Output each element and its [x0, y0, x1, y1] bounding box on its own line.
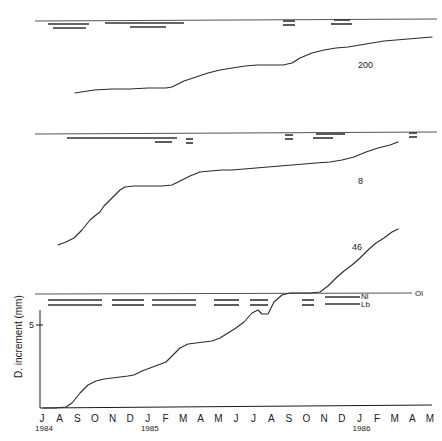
- y-axis-title: D. increment (mm): [13, 295, 24, 378]
- x-axis-year-label: 1985: [141, 424, 159, 433]
- x-axis-month-label: N: [109, 413, 116, 424]
- panel-1-leaf-buds-bars: [53, 24, 352, 28]
- panel-3: Ol Nl: [13, 229, 434, 433]
- x-axis-month-label: J: [40, 413, 45, 424]
- panel-3-y-tick-label-5: 5: [29, 320, 34, 330]
- x-axis-month-label: F: [374, 413, 380, 424]
- x-axis-month-label: J: [251, 413, 256, 424]
- x-axis-month-label: O: [303, 413, 311, 424]
- x-axis-year-label: 1986: [353, 424, 371, 433]
- x-axis-year-labels: 198419851986: [35, 424, 371, 433]
- panel-1: 200: [35, 19, 437, 93]
- panel-3-phenology: Ol Nl: [35, 289, 423, 309]
- x-axis-month-label: O: [91, 413, 99, 424]
- panel-3-x-axis: [40, 405, 432, 408]
- x-axis-month-label: N: [321, 413, 328, 424]
- panel-3-series-label: 46: [352, 242, 362, 252]
- x-axis-month-label: M: [179, 413, 187, 424]
- panel-3-new-leaves-bars: [48, 297, 360, 300]
- panel-2-old-leaves-bar: [35, 132, 437, 134]
- panel-2-leaf-buds-bars: [155, 137, 417, 143]
- x-axis-month-label: M: [426, 413, 434, 424]
- panel-3-leaf-buds-bars: [48, 304, 360, 305]
- x-axis-month-label: D: [338, 413, 345, 424]
- panel-1-growth-curve: [75, 37, 432, 93]
- x-axis-month-label: A: [197, 413, 204, 424]
- panel-3-growth-curve: [43, 229, 398, 408]
- panel-1-series-label: 200: [358, 60, 373, 70]
- chart-svg: 200: [0, 0, 442, 441]
- panel-2: 8: [35, 132, 437, 245]
- panel-3-old-leaves-bar: [35, 293, 412, 294]
- x-axis-month-label: J: [234, 413, 239, 424]
- panel-1-phenology: [35, 19, 437, 28]
- figure-canvas: 200: [0, 0, 442, 441]
- x-axis-month-label: S: [74, 413, 81, 424]
- panel-2-phenology: [35, 132, 437, 143]
- x-axis-month-labels: JASONDJFMAMJJASONDJFMAM: [40, 413, 435, 424]
- x-axis-month-label: A: [56, 413, 63, 424]
- panel-2-growth-curve: [58, 142, 398, 245]
- x-axis-month-label: F: [162, 413, 168, 424]
- x-axis-month-label: M: [391, 413, 399, 424]
- x-axis-month-label: M: [214, 413, 222, 424]
- x-axis-month-label: S: [286, 413, 293, 424]
- x-axis-month-label: A: [409, 413, 416, 424]
- phenology-label-ol: Ol: [415, 289, 423, 298]
- x-axis-month-label: J: [357, 413, 362, 424]
- x-axis-month-label: D: [127, 413, 134, 424]
- x-axis-year-label: 1984: [35, 424, 53, 433]
- panel-1-old-leaves-bar: [35, 19, 437, 21]
- x-axis-month-label: J: [145, 413, 150, 424]
- panel-2-series-label: 8: [358, 176, 363, 186]
- phenology-label-lb: Lb: [361, 300, 370, 309]
- x-axis-month-label: A: [268, 413, 275, 424]
